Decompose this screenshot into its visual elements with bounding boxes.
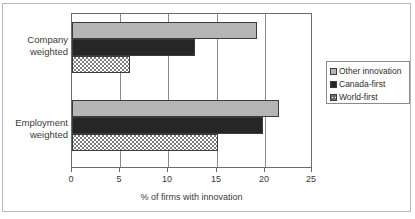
bar-employment-world-first [72,134,218,151]
legend-swatch-canada-first-icon [330,81,337,88]
tick-label-5: 5 [116,174,121,184]
x-axis-label: % of firms with innovation [71,192,312,203]
tick-label-15: 15 [211,174,221,184]
category-label-employment: Employment weighted [0,117,68,141]
legend-swatch-other-innovation-icon [330,68,337,75]
tick-label-20: 20 [259,174,269,184]
bar-company-other-innovation [72,22,257,39]
category-label-employment-line2: weighted [0,129,68,141]
category-label-company: Company weighted [0,34,68,58]
chart-figure: Company weighted Employment weighted 0 5… [0,0,415,219]
legend-label-world-first: World-first [339,93,378,102]
legend-item-canada-first: Canada-first [330,78,407,90]
tick-mark-5 [119,168,120,172]
tick-mark-25 [311,168,312,172]
tick-mark-15 [216,168,217,172]
legend-item-world-first: World-first [330,91,407,103]
bar-employment-canada-first [72,117,263,134]
tick-mark-0 [71,168,72,172]
tick-mark-20 [264,168,265,172]
gridline-20 [265,14,266,167]
chart-legend: Other innovation Canada-first World-firs… [326,61,410,104]
plot-area [71,13,312,168]
bar-company-world-first [72,56,130,73]
legend-label-other-innovation: Other innovation [339,67,401,76]
bar-employment-other-innovation [72,100,279,117]
category-label-employment-line1: Employment [0,117,68,129]
legend-label-canada-first: Canada-first [339,80,385,89]
category-label-company-line2: weighted [0,46,68,58]
tick-label-25: 25 [306,174,316,184]
tick-mark-10 [167,168,168,172]
bar-company-canada-first [72,39,195,56]
tick-label-0: 0 [68,174,73,184]
tick-label-10: 10 [162,174,172,184]
legend-item-other-innovation: Other innovation [330,65,407,77]
legend-swatch-world-first-icon [330,94,337,101]
category-label-company-line1: Company [0,34,68,46]
